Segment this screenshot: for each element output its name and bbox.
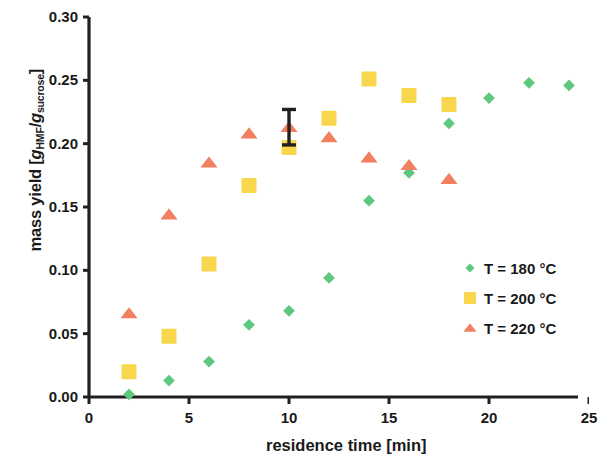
data-point — [283, 305, 295, 317]
data-point — [360, 151, 377, 162]
data-point — [160, 208, 177, 219]
triangle-icon — [460, 319, 480, 337]
data-point — [242, 178, 257, 193]
legend-label: T = 200 °C — [484, 290, 556, 307]
triangle-glyph — [463, 323, 476, 332]
legend-item[interactable]: T = 220 °C — [460, 313, 556, 343]
y-tick-label: 0.10 — [20, 261, 78, 278]
data-point — [120, 307, 137, 318]
data-point — [322, 111, 337, 126]
x-tick-label: 15 — [369, 409, 409, 426]
legend-label: T = 220 °C — [484, 320, 556, 337]
data-point — [162, 329, 177, 344]
y-tick-label: 0.25 — [20, 71, 78, 88]
diamond-icon — [460, 259, 480, 277]
y-tick-label: 0.30 — [20, 8, 78, 25]
diamond-glyph — [465, 263, 474, 272]
y-axis-label: mass yield [gHMF/gsucrose] — [26, 20, 46, 300]
data-point — [523, 77, 535, 89]
data-point — [563, 79, 575, 91]
series-1 — [123, 77, 575, 400]
y-tick-label: 0.20 — [20, 135, 78, 152]
legend-item[interactable]: T = 180 °C — [460, 253, 556, 283]
data-point — [323, 272, 335, 284]
data-point — [163, 375, 175, 387]
x-tick-label: 10 — [269, 409, 309, 426]
square-glyph — [464, 292, 476, 304]
y-tick-label: 0.15 — [20, 198, 78, 215]
legend-item[interactable]: T = 200 °C — [460, 283, 556, 313]
chart-legend: T = 180 °CT = 200 °CT = 220 °C — [460, 253, 556, 343]
data-point — [203, 356, 215, 368]
data-point — [483, 92, 495, 104]
data-point — [362, 72, 377, 87]
data-point — [320, 131, 337, 142]
error-bar — [282, 109, 296, 144]
data-point — [122, 364, 137, 379]
legend-label: T = 180 °C — [484, 260, 556, 277]
data-point — [200, 156, 217, 167]
data-point — [240, 127, 257, 138]
data-point — [442, 97, 457, 112]
y-tick-label: 0.05 — [20, 325, 78, 342]
square-icon — [460, 289, 480, 307]
data-point — [243, 319, 255, 331]
data-point — [202, 257, 217, 272]
data-point — [402, 88, 417, 103]
x-tick-label: 5 — [169, 409, 209, 426]
y-tick-label: 0.00 — [20, 388, 78, 405]
data-point — [443, 117, 455, 129]
x-tick-label: 20 — [469, 409, 509, 426]
data-point — [400, 159, 417, 170]
data-point — [363, 195, 375, 207]
x-tick-label: 25 — [569, 409, 602, 426]
x-axis-label: residence time [min] — [266, 436, 426, 455]
data-point — [440, 173, 457, 184]
x-tick-label: 0 — [69, 409, 109, 426]
